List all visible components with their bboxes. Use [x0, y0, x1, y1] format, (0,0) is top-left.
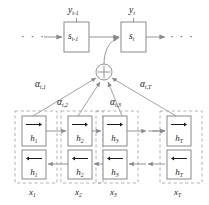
- decoder-state-label-curr: st: [129, 32, 134, 42]
- forward-state-label-2: h2: [68, 122, 92, 145]
- backward-state-label-1: h1: [22, 156, 46, 179]
- right-arrow-icon: [72, 122, 88, 127]
- decoder-ellipsis-left: · · ·: [21, 30, 46, 42]
- decoder-state-label-prev: st-1: [68, 32, 78, 42]
- backward-state-label-3: h3: [103, 156, 127, 179]
- right-arrow-icon: [171, 122, 187, 127]
- right-arrow-icon: [26, 122, 42, 127]
- forward-state-label-T: hT: [167, 122, 191, 145]
- attention-diagram: yt-1 yt st-1 st · · · · · · αt,1 αt,2 αt…: [0, 0, 209, 205]
- left-arrow-icon: [107, 156, 123, 161]
- input-label-3: x3: [110, 188, 117, 197]
- attention-weight-label-T: αt,T: [140, 80, 151, 90]
- backward-state-label-2: h2: [68, 156, 92, 179]
- attention-weight-label-2: αt,2: [57, 98, 68, 108]
- context-to-decoder-curve: [104, 38, 119, 65]
- input-label-1: x1: [29, 188, 36, 197]
- input-label-T: xT: [174, 188, 181, 197]
- forward-state-label-1: h1: [22, 122, 46, 145]
- forward-state-label-3: h3: [103, 122, 127, 145]
- backward-state-label-T: hT: [167, 156, 191, 179]
- decoder-output-label-curr: yt: [129, 6, 135, 16]
- left-arrow-icon: [171, 156, 187, 161]
- decoder-output-label-prev: yt-1: [68, 6, 79, 16]
- left-arrow-icon: [26, 156, 42, 161]
- right-arrow-icon: [107, 122, 123, 127]
- attention-weight-label-1: αt,1: [35, 80, 46, 90]
- input-label-2: x2: [75, 188, 82, 197]
- left-arrow-icon: [72, 156, 88, 161]
- decoder-ellipsis-right: · · ·: [170, 30, 195, 42]
- attention-weight-label-3: αt,3: [110, 98, 121, 108]
